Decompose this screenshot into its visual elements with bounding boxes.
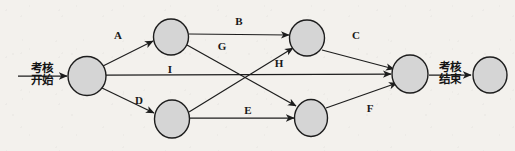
edge-label-F: F xyxy=(367,103,374,114)
node-n3[interactable] xyxy=(155,100,190,138)
edge-label-B: B xyxy=(235,16,242,27)
edge-F xyxy=(326,83,397,108)
end-label: 考核 结束 xyxy=(439,62,461,85)
end-label-line2: 结束 xyxy=(439,74,461,86)
edge-label-I: I xyxy=(168,64,172,75)
node-n2[interactable] xyxy=(154,19,189,55)
node-n1[interactable] xyxy=(68,57,106,96)
node-n5[interactable] xyxy=(295,100,328,137)
edge-label-E: E xyxy=(244,105,251,116)
edge-A xyxy=(103,41,153,66)
start-label-line2: 开始 xyxy=(31,75,53,87)
node-n4[interactable] xyxy=(290,20,325,56)
edge-label-A: A xyxy=(114,30,122,41)
edge-label-G: G xyxy=(218,41,227,52)
edge-C xyxy=(322,50,394,69)
edge-B xyxy=(189,34,289,35)
edge-D xyxy=(102,88,154,113)
node-n7[interactable] xyxy=(473,57,507,93)
edge-label-H: H xyxy=(275,58,284,69)
start-label: 考核 开始 xyxy=(31,63,53,86)
diagram-svg xyxy=(0,0,515,151)
node-n6[interactable] xyxy=(392,55,428,93)
network-diagram-canvas: A B G I D H E C F 考核 开始 考核 结束 xyxy=(0,0,515,151)
edge-label-C: C xyxy=(352,30,360,41)
edge-label-D: D xyxy=(135,95,143,106)
edge-G xyxy=(187,45,296,106)
